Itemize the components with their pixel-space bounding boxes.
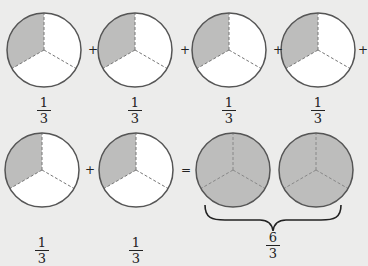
denominator: 3	[308, 112, 328, 125]
denominator: 3	[125, 112, 145, 125]
whole-circle-2	[279, 133, 353, 207]
plus-sign: +	[88, 44, 98, 56]
denominator: 3	[219, 112, 239, 125]
third-circle-1	[7, 13, 81, 87]
numerator: 1	[308, 96, 328, 109]
numerator: 1	[126, 236, 146, 249]
third-circle-3	[192, 13, 266, 87]
numerator: 1	[34, 96, 54, 109]
curly-brace	[205, 205, 341, 231]
fraction-label: 1 3	[125, 96, 145, 125]
denominator: 3	[34, 112, 54, 125]
equals-sign: =	[181, 164, 191, 176]
fraction-label: 1 3	[308, 96, 328, 125]
denominator: 3	[32, 252, 52, 265]
plus-sign: +	[358, 44, 368, 56]
result-fraction-label: 6 3	[263, 231, 283, 260]
third-circle-5	[5, 133, 79, 207]
third-circle-6	[99, 133, 173, 207]
numerator: 1	[32, 236, 52, 249]
fraction-label: 1 3	[32, 236, 52, 265]
plus-sign: +	[273, 44, 283, 56]
fraction-label: 1 3	[34, 96, 54, 125]
fraction-label: 1 3	[126, 236, 146, 265]
third-circle-4	[281, 13, 355, 87]
whole-circle-1	[196, 133, 270, 207]
denominator: 3	[126, 252, 146, 265]
numerator: 1	[219, 96, 239, 109]
denominator: 3	[263, 247, 283, 260]
third-circle-2	[98, 13, 172, 87]
numerator: 1	[125, 96, 145, 109]
numerator: 6	[263, 231, 283, 244]
plus-sign: +	[85, 164, 95, 176]
fraction-label: 1 3	[219, 96, 239, 125]
plus-sign: +	[180, 44, 190, 56]
